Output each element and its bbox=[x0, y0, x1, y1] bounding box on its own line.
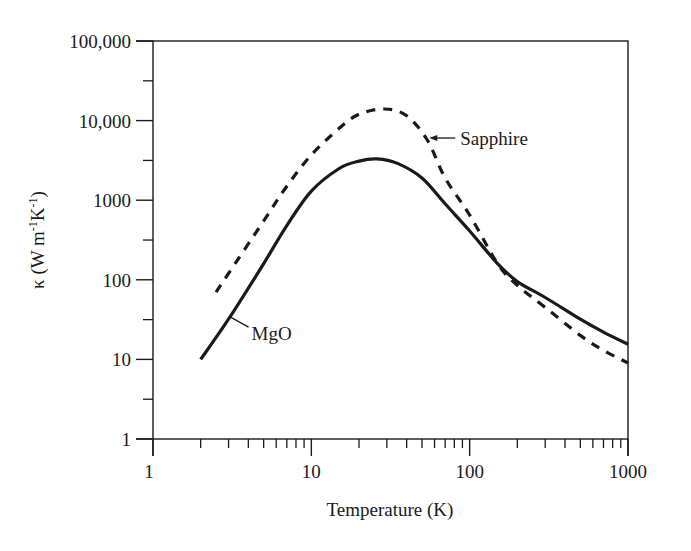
y-tick-label: 100,000 bbox=[69, 31, 131, 52]
y-axis-ticks: 110100100010,000100,000 bbox=[69, 31, 153, 450]
y-tick-label: 10 bbox=[112, 349, 131, 370]
y-tick-label: 1 bbox=[122, 429, 132, 450]
x-tick-label: 1 bbox=[144, 461, 154, 482]
y-tick-label: 10,000 bbox=[79, 111, 131, 132]
plot-border bbox=[153, 41, 628, 439]
y-axis-title: κ (W m-1K-1) bbox=[26, 191, 49, 289]
thermal-conductivity-chart: 110100100010,000100,000 1101001000 Sapph… bbox=[0, 0, 691, 551]
mgo-leader-line bbox=[231, 317, 249, 327]
sapphire-label: Sapphire bbox=[460, 128, 528, 149]
y-tick-label: 100 bbox=[103, 270, 132, 291]
x-tick-label: 10 bbox=[302, 461, 321, 482]
x-tick-label: 1000 bbox=[609, 461, 647, 482]
x-axis-title: Temperature (K) bbox=[327, 499, 454, 521]
sapphire-arrow-head-icon bbox=[429, 135, 437, 141]
chart-svg: 110100100010,000100,000 1101001000 Sapph… bbox=[0, 0, 691, 551]
y-tick-label: 1000 bbox=[93, 190, 131, 211]
mgo-label: MgO bbox=[252, 323, 292, 344]
plot-frame bbox=[136, 41, 628, 456]
x-axis-ticks: 1101001000 bbox=[144, 439, 647, 482]
x-tick-label: 100 bbox=[455, 461, 484, 482]
